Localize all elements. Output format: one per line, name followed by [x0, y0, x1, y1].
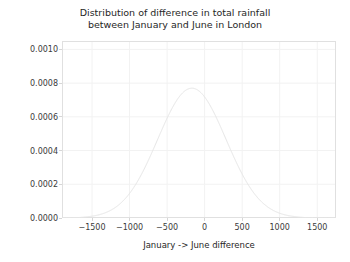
x-tick-label: −500 [156, 223, 178, 232]
y-tick-mark [59, 116, 62, 117]
y-tick-label: 0.0010 [12, 45, 58, 54]
x-tick-mark [242, 218, 243, 221]
x-tick-mark [317, 218, 318, 221]
y-tick-label: 0.0002 [12, 180, 58, 189]
x-tick-label: −1500 [78, 223, 105, 232]
x-axis-label: January -> June difference [62, 240, 336, 250]
x-tick-mark [167, 218, 168, 221]
y-tick-mark [59, 83, 62, 84]
plot-canvas [62, 41, 336, 218]
y-tick-mark [59, 150, 62, 151]
x-tick-mark [129, 218, 130, 221]
x-axis-tick-labels: −1500−1000−500050010001500 [0, 223, 350, 235]
x-tick-mark [204, 218, 205, 221]
y-tick-label: 0.0008 [12, 79, 58, 88]
density-curve-line [62, 88, 336, 218]
plot-area [62, 41, 336, 218]
y-tick-mark [59, 49, 62, 50]
x-tick-label: −1000 [116, 223, 143, 232]
y-tick-label: 0.0006 [12, 112, 58, 121]
x-tick-label: 500 [235, 223, 250, 232]
y-tick-mark [59, 184, 62, 185]
vertical-gridlines [92, 41, 317, 218]
chart-figure: Distribution of difference in total rain… [0, 0, 350, 262]
x-tick-label: 1000 [270, 223, 290, 232]
x-tick-mark [92, 218, 93, 221]
y-tick-label: 0.0004 [12, 146, 58, 155]
y-tick-mark [59, 218, 62, 219]
x-tick-mark [279, 218, 280, 221]
horizontal-gridlines [62, 49, 336, 218]
x-tick-label: 0 [202, 223, 207, 232]
x-tick-label: 1500 [307, 223, 327, 232]
axis-spines [63, 42, 336, 218]
y-tick-label: 0.0000 [12, 214, 58, 223]
